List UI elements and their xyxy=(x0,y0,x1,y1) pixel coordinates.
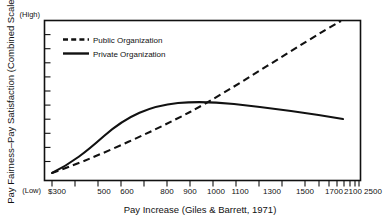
chart-figure: Public Organization Private Organization… xyxy=(0,0,385,222)
x-tick-label: 1700 xyxy=(325,187,343,196)
x-tick-label: 2100 xyxy=(344,187,362,196)
series-line-private-organization xyxy=(52,102,343,173)
x-tick-label: 900 xyxy=(183,187,197,196)
x-tick-label: 500 xyxy=(97,187,111,196)
x-tick-label: $300 xyxy=(48,187,66,196)
plot-area-border xyxy=(45,21,361,181)
chart-legend: Public Organization Private Organization xyxy=(63,36,165,59)
y-axis-low-anchor: (Low) xyxy=(22,186,41,195)
x-tick-label: 800 xyxy=(160,187,174,196)
legend-label-public-organization: Public Organization xyxy=(93,36,162,45)
x-tick-label: 600 xyxy=(120,187,134,196)
legend-label-private-organization: Private Organization xyxy=(93,50,165,59)
x-axis-tick-labels: $300 500 600 800 900 1000 1100 1300 1500… xyxy=(48,187,382,196)
y-axis-ticks xyxy=(45,35,51,162)
line-chart: Public Organization Private Organization… xyxy=(0,0,385,222)
x-tick-label: 1100 xyxy=(231,187,249,196)
y-axis-title: Pay Fairness–Pay Satisfaction (Combined … xyxy=(5,0,16,204)
x-axis-title: Pay Increase (Giles & Barrett, 1971) xyxy=(124,204,277,215)
x-tick-label: 2500 xyxy=(364,187,382,196)
x-axis-ticks xyxy=(52,181,359,187)
x-tick-label: 1000 xyxy=(207,187,225,196)
x-tick-label: 1500 xyxy=(296,187,314,196)
x-tick-label: 1300 xyxy=(263,187,281,196)
y-axis-high-anchor: (High) xyxy=(20,10,41,19)
